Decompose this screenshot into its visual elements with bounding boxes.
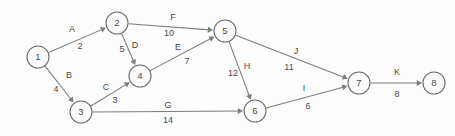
edge-label-group-j: J11	[284, 46, 298, 72]
edge-label-group-f: F10	[164, 12, 176, 38]
edge-label-group-a: A2	[69, 24, 83, 51]
edge-name-k: K	[394, 67, 400, 77]
edge-weight-k: 8	[394, 89, 399, 99]
node-label-1: 1	[35, 51, 40, 62]
edge-weight-e: 7	[184, 56, 189, 66]
node-1[interactable]: 1	[27, 46, 49, 68]
edge-weight-b: 4	[53, 84, 58, 94]
node-label-3: 3	[78, 106, 83, 117]
node-label-5: 5	[222, 25, 227, 36]
edge-e	[150, 36, 214, 70]
node-6[interactable]: 6	[244, 100, 266, 122]
edge-weight-a: 2	[77, 41, 82, 51]
node-label-6: 6	[252, 105, 257, 116]
graph-diagram-canvas: 12345678 A2B4C3D5E7F10G14H12I6J11K8	[0, 0, 455, 136]
edge-label-group-e: E7	[175, 42, 190, 66]
edge-weight-c: 3	[112, 95, 117, 105]
edge-j	[236, 35, 348, 79]
edge-weight-h: 12	[228, 68, 238, 78]
edge-weight-f: 10	[164, 28, 174, 38]
edge-name-d: D	[132, 40, 139, 50]
edge-name-g: G	[164, 100, 171, 110]
node-label-2: 2	[114, 17, 119, 28]
node-2[interactable]: 2	[106, 12, 128, 34]
node-label-7: 7	[356, 77, 361, 88]
node-label-8: 8	[431, 77, 436, 88]
graph-svg: 12345678 A2B4C3D5E7F10G14H12I6J11K8	[0, 0, 455, 136]
node-8[interactable]: 8	[423, 72, 445, 94]
edge-name-i: I	[303, 83, 306, 93]
edge-name-j: J	[294, 46, 299, 56]
edge-name-e: E	[175, 42, 181, 52]
node-3[interactable]: 3	[70, 101, 92, 123]
node-7[interactable]: 7	[348, 72, 370, 94]
edge-name-h: H	[244, 61, 251, 71]
node-label-4: 4	[137, 70, 142, 81]
edge-name-a: A	[69, 24, 75, 34]
node-5[interactable]: 5	[214, 20, 236, 42]
edge-name-f: F	[170, 12, 176, 22]
edge-weight-d: 5	[119, 44, 124, 54]
edge-label-group-g: G14	[163, 100, 173, 125]
edge-weight-i: 6	[305, 101, 310, 111]
edge-name-c: C	[103, 82, 110, 92]
edge-k	[371, 80, 423, 86]
edge-weight-g: 14	[163, 115, 173, 125]
edge-c	[91, 82, 130, 106]
edge-name-b: B	[66, 70, 72, 80]
edge-weight-j: 11	[284, 62, 293, 72]
edge-label-group-b: B4	[53, 70, 72, 94]
edge-label-group-d: D5	[119, 40, 138, 54]
node-4[interactable]: 4	[129, 65, 151, 87]
